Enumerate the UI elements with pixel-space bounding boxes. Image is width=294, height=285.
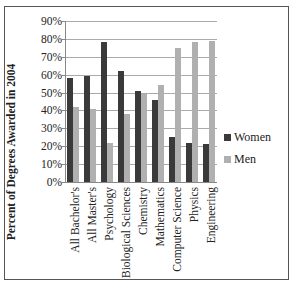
y-tick-label: 40% (41, 104, 62, 116)
bar-men (124, 114, 130, 182)
gridline (65, 21, 217, 22)
bar-men (73, 107, 79, 182)
y-tick-label: 30% (41, 122, 62, 134)
men-swatch-icon (224, 156, 231, 163)
women-swatch-icon (224, 134, 231, 141)
bar-men (192, 42, 198, 182)
y-tick-label: 90% (41, 15, 62, 27)
bar-men (175, 48, 181, 182)
y-tick-label: 0% (47, 176, 62, 188)
y-tick-label: 80% (41, 33, 62, 45)
x-tick-label: Mathematics (154, 187, 166, 246)
x-tick-label: Chemistry (137, 187, 149, 235)
x-tick-label: Psychology (103, 187, 115, 241)
bar-men (90, 109, 96, 182)
x-tick-label: All Master's (86, 187, 98, 243)
y-axis (65, 21, 66, 183)
legend-label-men: Men (234, 152, 256, 167)
y-tick-label: 70% (41, 51, 62, 63)
y-tick-label: 10% (41, 158, 62, 170)
legend-label-women: Women (234, 130, 271, 145)
x-tick-label: Computer Science (171, 187, 183, 272)
x-axis (65, 182, 217, 183)
y-tick-label: 20% (41, 140, 62, 152)
bar-men (107, 143, 113, 182)
gridline (65, 39, 217, 40)
bar-men (158, 85, 164, 182)
x-tick-label: Engineering (205, 187, 217, 243)
x-tick-label: All Bachelor's (69, 187, 81, 253)
bar-men (209, 41, 215, 182)
bar-men (141, 94, 147, 182)
x-tick-label: Physics (188, 187, 200, 222)
x-tick-label: Biological Sciences (120, 187, 132, 278)
legend-item-men: Men (224, 148, 271, 170)
legend-item-women: Women (224, 126, 271, 148)
legend: Women Men (224, 126, 271, 170)
y-tick-label: 60% (41, 69, 62, 81)
y-tick-label: 50% (41, 87, 62, 99)
y-axis-title: Percent of Degrees Awarded in 2004 (5, 64, 17, 241)
